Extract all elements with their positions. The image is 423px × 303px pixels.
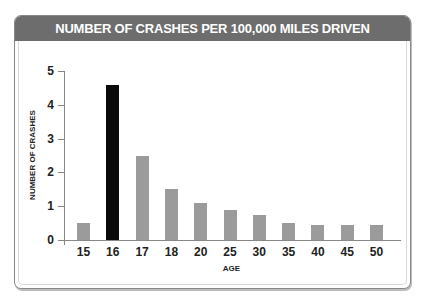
y-tick-label: 2 — [42, 166, 54, 178]
x-tick-label: 17 — [127, 245, 157, 259]
y-tick — [58, 139, 64, 140]
bar-age-50 — [370, 225, 383, 240]
bar-age-17 — [136, 156, 149, 241]
y-tick-label: 0 — [42, 234, 54, 246]
x-tick-label: 50 — [362, 245, 392, 259]
x-tick-label: 15 — [69, 245, 99, 259]
y-tick — [58, 240, 64, 241]
y-tick-label: 4 — [42, 99, 54, 111]
y-tick — [58, 71, 64, 72]
x-tick-label: 45 — [332, 245, 362, 259]
x-axis-title: AGE — [0, 264, 423, 273]
bar-age-45 — [341, 225, 354, 240]
x-axis — [64, 240, 401, 241]
y-tick — [58, 172, 64, 173]
y-tick — [58, 206, 64, 207]
y-tick-label: 1 — [42, 200, 54, 212]
plot-area: 012345 1516171820253035404550 NUMBER OF … — [0, 0, 423, 303]
x-tick-label: 30 — [244, 245, 274, 259]
x-tick-label: 16 — [98, 245, 128, 259]
y-axis-title: NUMBER OF CRASHES — [28, 110, 37, 200]
y-tick-label: 3 — [42, 133, 54, 145]
x-axis-stub — [64, 240, 65, 245]
x-tick-label: 40 — [303, 245, 333, 259]
x-tick-label: 20 — [186, 245, 216, 259]
y-axis — [64, 71, 65, 241]
bar-age-18 — [165, 189, 178, 240]
bar-age-25 — [224, 210, 237, 240]
y-tick-label: 5 — [42, 65, 54, 77]
x-tick-label: 18 — [156, 245, 186, 259]
x-tick-label: 35 — [274, 245, 304, 259]
y-tick — [58, 105, 64, 106]
bar-age-30 — [253, 215, 266, 240]
bar-age-40 — [311, 225, 324, 240]
bar-age-15 — [77, 223, 90, 240]
bar-age-20 — [194, 203, 207, 240]
bar-age-35 — [282, 223, 295, 240]
bar-age-16 — [106, 85, 119, 240]
x-tick-label: 25 — [215, 245, 245, 259]
